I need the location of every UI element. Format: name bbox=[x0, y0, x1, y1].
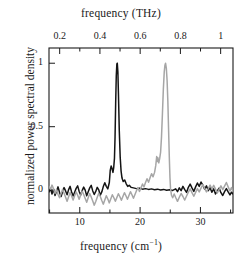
y-tick-label-1: 1 bbox=[15, 56, 43, 67]
top-tick-label-0.2: 0.2 bbox=[47, 30, 73, 41]
top-tick-label-1: 1 bbox=[208, 30, 234, 41]
bottom-tick-label-10: 10 bbox=[67, 216, 93, 227]
top-tick-label-0.8: 0.8 bbox=[167, 30, 193, 41]
top-tick-label-0.6: 0.6 bbox=[127, 30, 153, 41]
curve-gray-trace bbox=[49, 63, 233, 205]
top-tick-label-0.4: 0.4 bbox=[87, 30, 113, 41]
spectral-density-figure: frequency (THz) normalized power spectra… bbox=[0, 0, 242, 263]
y-tick-label-0: 0 bbox=[15, 183, 43, 194]
data-curves bbox=[49, 63, 233, 205]
bottom-tick-label-20: 20 bbox=[127, 216, 153, 227]
y-tick-label-0.5: 0.5 bbox=[15, 120, 43, 131]
bottom-tick-label-30: 30 bbox=[187, 216, 213, 227]
curve-black-trace bbox=[49, 63, 233, 196]
